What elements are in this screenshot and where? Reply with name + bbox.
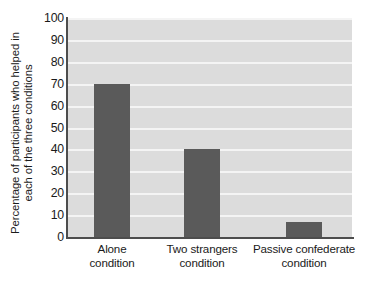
y-axis-tick-label: 10	[33, 209, 64, 221]
y-axis-tick-label: 0	[33, 231, 64, 243]
y-axis-tick-label: 50	[33, 122, 64, 134]
y-axis-tick-label: 70	[33, 78, 64, 90]
y-axis-tick-label: 90	[33, 34, 64, 46]
x-axis-tick-label: Passive confederatecondition	[234, 242, 369, 270]
x-axis-tick-label-line: condition	[234, 256, 369, 270]
plot-area	[68, 18, 352, 237]
y-axis-tick-label: 30	[33, 165, 64, 177]
y-axis-tick-label: 60	[33, 100, 64, 112]
bar-chart-figure: Percentage of participants who helped in…	[0, 0, 369, 287]
x-axis-tick-labels: AloneconditionTwo strangersconditionPass…	[68, 242, 352, 282]
y-axis-tick-label: 20	[33, 187, 64, 199]
x-axis-tick-label-line: Passive confederate	[234, 242, 369, 256]
y-axis-tick-label: 40	[33, 143, 64, 155]
y-axis-tick-labels: 1009080706050403020100	[33, 18, 64, 237]
y-axis-line	[66, 17, 68, 238]
bar[interactable]	[184, 149, 220, 237]
x-axis-line	[66, 237, 354, 239]
y-axis-tick-label: 100	[33, 12, 64, 24]
bar[interactable]	[286, 222, 322, 237]
y-axis-title-line-1: Percentage of participants who helped in	[9, 32, 23, 234]
bar[interactable]	[94, 84, 130, 237]
y-axis-tick-label: 80	[33, 56, 64, 68]
bars-group	[68, 18, 352, 237]
